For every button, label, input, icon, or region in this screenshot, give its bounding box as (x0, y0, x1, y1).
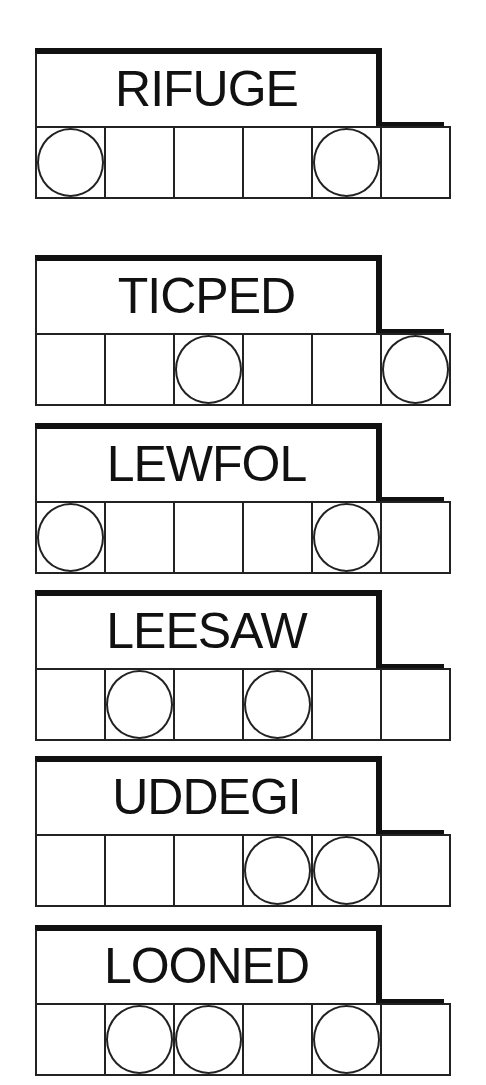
answer-letter-box[interactable] (106, 335, 175, 406)
answer-letter-box[interactable] (175, 670, 244, 741)
answer-letter-box[interactable] (313, 836, 382, 907)
answer-letter-box[interactable] (37, 836, 106, 907)
answer-letter-box[interactable] (244, 503, 313, 574)
scramble-label-box: UDDEGI (35, 761, 376, 834)
panel-step-vertical (376, 756, 382, 836)
answer-letter-box[interactable] (313, 503, 382, 574)
answer-grid (35, 834, 451, 907)
panel-step-vertical (376, 925, 382, 1005)
scrambled-word: LEESAW (37, 601, 376, 661)
answer-letter-box[interactable] (382, 128, 451, 199)
scrambled-word: TICPED (37, 266, 376, 326)
circled-letter-icon (37, 128, 104, 197)
answer-letter-box[interactable] (313, 1005, 382, 1076)
answer-letter-box[interactable] (37, 335, 106, 406)
scramble-label-box: LEWFOL (35, 428, 376, 501)
circled-letter-icon (313, 1005, 380, 1074)
circled-letter-icon (382, 335, 449, 404)
scrambled-word: LEWFOL (37, 434, 376, 494)
answer-letter-box[interactable] (244, 836, 313, 907)
jumble-word-panel: LEWFOL (35, 423, 445, 575)
panel-step-vertical (376, 423, 382, 503)
answer-grid (35, 668, 451, 741)
circled-letter-icon (175, 1005, 242, 1074)
circled-letter-icon (313, 128, 380, 197)
panel-step-vertical (376, 590, 382, 670)
answer-letter-box[interactable] (244, 670, 313, 741)
answer-grid (35, 126, 451, 199)
answer-letter-box[interactable] (106, 670, 175, 741)
scrambled-word: RIFUGE (37, 59, 376, 119)
scrambled-word: LOONED (37, 936, 376, 996)
scrambled-word: UDDEGI (37, 767, 376, 827)
answer-letter-box[interactable] (382, 836, 451, 907)
circled-letter-icon (37, 503, 104, 572)
jumble-word-panel: UDDEGI (35, 756, 445, 908)
jumble-word-panel: RIFUGE (35, 48, 445, 200)
answer-grid (35, 333, 451, 406)
answer-letter-box[interactable] (106, 503, 175, 574)
scramble-label-box: RIFUGE (35, 53, 376, 126)
answer-letter-box[interactable] (175, 836, 244, 907)
answer-letter-box[interactable] (175, 1005, 244, 1076)
answer-letter-box[interactable] (244, 335, 313, 406)
answer-letter-box[interactable] (313, 128, 382, 199)
scramble-label-box: LOONED (35, 930, 376, 1003)
scramble-label-box: LEESAW (35, 595, 376, 668)
circled-letter-icon (106, 670, 173, 739)
answer-letter-box[interactable] (244, 1005, 313, 1076)
panel-step-vertical (376, 255, 382, 335)
answer-letter-box[interactable] (382, 503, 451, 574)
answer-letter-box[interactable] (175, 335, 244, 406)
answer-letter-box[interactable] (106, 836, 175, 907)
answer-grid (35, 1003, 451, 1076)
answer-letter-box[interactable] (37, 128, 106, 199)
answer-letter-box[interactable] (244, 128, 313, 199)
answer-letter-box[interactable] (382, 1005, 451, 1076)
answer-letter-box[interactable] (382, 335, 451, 406)
answer-letter-box[interactable] (37, 670, 106, 741)
jumble-word-panel: TICPED (35, 255, 445, 407)
circled-letter-icon (244, 670, 311, 739)
answer-grid (35, 501, 451, 574)
answer-letter-box[interactable] (37, 503, 106, 574)
circled-letter-icon (106, 1005, 173, 1074)
answer-letter-box[interactable] (313, 335, 382, 406)
jumble-word-panel: LOONED (35, 925, 445, 1077)
answer-letter-box[interactable] (37, 1005, 106, 1076)
circled-letter-icon (313, 836, 380, 905)
jumble-word-panel: LEESAW (35, 590, 445, 742)
answer-letter-box[interactable] (382, 670, 451, 741)
answer-letter-box[interactable] (106, 1005, 175, 1076)
answer-letter-box[interactable] (175, 128, 244, 199)
answer-letter-box[interactable] (106, 128, 175, 199)
panel-step-vertical (376, 48, 382, 128)
answer-letter-box[interactable] (313, 670, 382, 741)
circled-letter-icon (175, 335, 242, 404)
circled-letter-icon (244, 836, 311, 905)
scramble-label-box: TICPED (35, 260, 376, 333)
answer-letter-box[interactable] (175, 503, 244, 574)
circled-letter-icon (313, 503, 380, 572)
